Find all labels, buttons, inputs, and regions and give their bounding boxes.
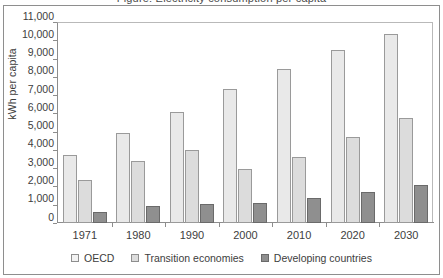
y-axis-tick-mark xyxy=(53,205,57,206)
chart-legend: OECDTransition economiesDeveloping count… xyxy=(3,250,440,266)
bar xyxy=(307,198,321,223)
bar xyxy=(223,89,237,223)
y-axis-tick-mark xyxy=(53,22,57,23)
bar xyxy=(170,112,184,223)
x-axis-tick-label: 1990 xyxy=(165,229,219,242)
y-axis-tick-label: 3,000 xyxy=(8,157,54,168)
bar-group-2000 xyxy=(219,22,273,223)
y-axis-tick-mark xyxy=(53,95,57,96)
bar-group-1990 xyxy=(165,22,219,223)
x-axis-tick-labels: 1971198019902000201020202030 xyxy=(58,229,433,245)
x-axis-tick-mark xyxy=(326,223,327,227)
bar xyxy=(399,118,413,223)
legend-label: OECD xyxy=(84,252,114,264)
bar-group-1980 xyxy=(112,22,166,223)
y-axis-tick-mark xyxy=(53,150,57,151)
y-axis-tick-label: 10,000 xyxy=(8,29,54,40)
bar xyxy=(238,169,252,223)
y-axis-tick-label: 5,000 xyxy=(8,120,54,131)
y-axis-tick-label: 4,000 xyxy=(8,138,54,149)
legend-label: Transition economies xyxy=(144,252,243,264)
bar-groups xyxy=(58,22,433,223)
x-axis-tick-mark xyxy=(112,223,113,227)
y-axis-tick-mark xyxy=(53,113,57,114)
bar xyxy=(93,212,107,223)
y-axis-tick-label: 9,000 xyxy=(8,47,54,58)
legend-item-2[interactable]: Developing countries xyxy=(261,252,372,264)
y-axis-tick-label: 1,000 xyxy=(8,193,54,204)
y-axis-tick-label: 8,000 xyxy=(8,65,54,76)
figure-container: Figure: Electricity consumption per capi… xyxy=(0,0,443,278)
x-axis-tick-label: 2020 xyxy=(326,229,380,242)
x-axis-tick-label: 2000 xyxy=(219,229,273,242)
y-axis-tick-labels: 11,00010,0009,0008,0007,0006,0005,0004,0… xyxy=(8,16,54,228)
legend-swatch-icon xyxy=(131,254,139,262)
bar xyxy=(116,133,130,223)
bar xyxy=(185,150,199,223)
bar-group-2030 xyxy=(379,22,433,223)
x-axis-tick-mark xyxy=(165,223,166,227)
bar xyxy=(78,180,92,223)
x-axis-tick-mark xyxy=(272,223,273,227)
x-axis-tick-label: 2010 xyxy=(272,229,326,242)
bar xyxy=(200,204,214,223)
y-axis-tick-label: 6,000 xyxy=(8,102,54,113)
y-axis-tick-label: 11,000 xyxy=(8,11,54,22)
bar xyxy=(131,161,145,223)
y-axis-tick-mark xyxy=(53,77,57,78)
legend-item-1[interactable]: Transition economies xyxy=(131,252,243,264)
y-axis-tick-mark xyxy=(53,59,57,60)
legend-label: Developing countries xyxy=(274,252,372,264)
bar xyxy=(331,50,345,223)
legend-swatch-icon xyxy=(71,254,79,262)
x-axis-tick-label: 2030 xyxy=(379,229,433,242)
bar xyxy=(346,137,360,223)
x-axis-tick-label: 1980 xyxy=(112,229,166,242)
bar xyxy=(253,203,267,223)
x-axis-tick-mark xyxy=(219,223,220,227)
x-axis-tick-mark xyxy=(379,223,380,227)
y-axis-tick-mark xyxy=(53,223,57,224)
x-axis-tick-label: 1971 xyxy=(58,229,112,242)
y-axis-tick-label: 0 xyxy=(8,212,54,223)
bar xyxy=(277,69,291,223)
bar xyxy=(384,34,398,223)
y-axis-tick-mark xyxy=(53,40,57,41)
bar-group-2010 xyxy=(272,22,326,223)
y-axis-tick-label: 7,000 xyxy=(8,84,54,95)
bar xyxy=(361,192,375,223)
y-axis-tick-mark xyxy=(53,186,57,187)
bar-group-2020 xyxy=(326,22,380,223)
y-axis-tick-mark xyxy=(53,168,57,169)
legend-swatch-icon xyxy=(261,254,269,262)
bar-group-1971 xyxy=(58,22,112,223)
bar xyxy=(292,157,306,223)
y-axis-tick-label: 2,000 xyxy=(8,175,54,186)
y-axis-tick-mark xyxy=(53,132,57,133)
bar xyxy=(414,185,428,223)
bar xyxy=(63,155,77,223)
bar xyxy=(146,206,160,223)
legend-item-0[interactable]: OECD xyxy=(71,252,114,264)
